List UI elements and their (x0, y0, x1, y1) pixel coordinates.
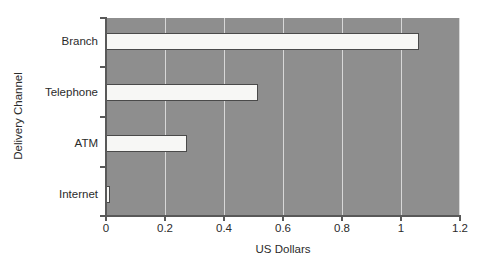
y-tick-mark (100, 116, 105, 118)
x-tick-label-3: 0.6 (275, 222, 291, 234)
plot-area (106, 18, 460, 215)
x-tick-label-4: 0.8 (334, 222, 350, 234)
x-tick-label-6: 1.2 (452, 222, 468, 234)
x-tick-mark (105, 216, 107, 221)
x-tick-label-1: 0.2 (157, 222, 173, 234)
x-tick-mark (164, 216, 166, 221)
x-tick-mark (341, 216, 343, 221)
x-tick-label-0: 0 (103, 222, 109, 234)
x-tick-mark (400, 216, 402, 221)
y-tick-mark (100, 66, 105, 68)
gridline (459, 18, 460, 215)
x-tick-mark (459, 216, 461, 221)
y-tick-label-branch: Branch (62, 35, 98, 47)
y-tick-mark (100, 166, 105, 168)
y-axis-line (105, 17, 107, 216)
y-tick-label-atm: ATM (75, 137, 98, 149)
bar-chart-figure: 0 0.2 0.4 0.6 0.8 1 1.2 Branch Telephone… (0, 0, 494, 271)
y-tick-label-telephone: Telephone (45, 86, 98, 98)
y-tick-mark (100, 215, 105, 217)
x-axis-title: US Dollars (106, 243, 460, 255)
y-tick-mark (100, 17, 105, 19)
x-tick-mark (282, 216, 284, 221)
y-tick-label-internet: Internet (59, 188, 98, 200)
y-axis-title: Delivery Channel (12, 72, 24, 160)
x-tick-mark (223, 216, 225, 221)
bar-atm (105, 135, 187, 152)
x-tick-label-2: 0.4 (216, 222, 232, 234)
bar-branch (105, 33, 419, 50)
bar-telephone (105, 84, 258, 101)
x-tick-label-5: 1 (398, 222, 404, 234)
